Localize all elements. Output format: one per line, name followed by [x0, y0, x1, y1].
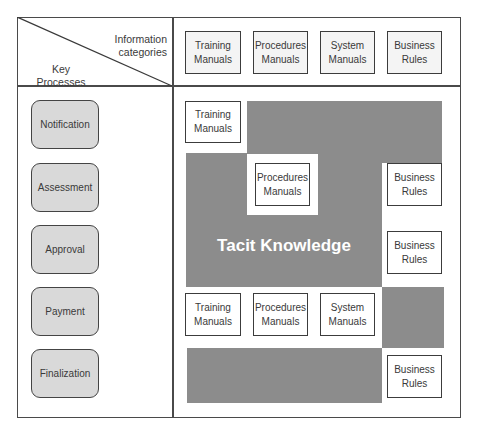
cell-finalization-business-rules: BusinessRules — [387, 355, 442, 398]
box-line: Business — [394, 171, 435, 185]
box-line: Manuals — [194, 122, 232, 136]
box-line: Training — [194, 108, 232, 122]
box-line: Procedures — [255, 301, 306, 315]
cell-approval-business-rules: BusinessRules — [387, 231, 442, 274]
information-categories-label: Information categories — [87, 33, 167, 59]
header-system-manuals: SystemManuals — [320, 31, 375, 74]
cell-payment-training-manuals: TrainingManuals — [185, 293, 241, 336]
box-line: Rules — [394, 377, 435, 391]
process-label: Finalization — [40, 368, 91, 379]
process-label: Approval — [45, 244, 84, 255]
label-line: Processes — [36, 76, 86, 89]
box-line: Manuals — [255, 315, 306, 329]
tacit-region-bottom-right — [382, 287, 444, 348]
tacit-region-top-extension — [382, 153, 442, 163]
process-finalization: Finalization — [31, 349, 99, 398]
tacit-region-left — [186, 153, 247, 287]
label-line: Key — [36, 63, 86, 76]
cell-assessment-business-rules: BusinessRules — [387, 163, 442, 206]
box-line: Procedures — [255, 39, 306, 53]
header-procedures-manuals: ProceduresManuals — [253, 31, 308, 74]
box-line: Rules — [394, 253, 435, 267]
tacit-region-bottom — [187, 348, 382, 403]
box-line: System — [329, 39, 367, 53]
box-line: Rules — [394, 185, 435, 199]
header-training-manuals: TrainingManuals — [185, 31, 241, 74]
box-line: Manuals — [329, 53, 367, 67]
header-business-rules: BusinessRules — [387, 31, 442, 74]
process-approval: Approval — [31, 225, 99, 274]
box-line: Training — [194, 301, 232, 315]
tacit-region-top — [247, 101, 442, 154]
cell-payment-system-manuals: SystemManuals — [320, 293, 375, 336]
process-payment: Payment — [31, 287, 99, 336]
box-line: Procedures — [257, 171, 308, 185]
process-label: Assessment — [38, 182, 92, 193]
box-line: Training — [194, 39, 232, 53]
box-line: Business — [394, 363, 435, 377]
process-notification: Notification — [31, 100, 99, 149]
box-line: Rules — [394, 53, 435, 67]
cell-payment-procedures-manuals: ProceduresManuals — [253, 293, 308, 336]
box-line: Manuals — [257, 185, 308, 199]
box-line: Manuals — [194, 53, 232, 67]
box-line: Manuals — [194, 315, 232, 329]
process-label: Notification — [40, 119, 89, 130]
key-processes-label: Key Processes — [36, 63, 86, 89]
box-line: System — [329, 301, 367, 315]
label-line: Information — [87, 33, 167, 46]
label-line: categories — [87, 46, 167, 59]
box-line: Business — [394, 39, 435, 53]
tacit-knowledge-label: Tacit Knowledge — [186, 236, 382, 256]
box-line: Manuals — [329, 315, 367, 329]
cell-notification-training-manuals: TrainingManuals — [185, 101, 241, 143]
process-label: Payment — [45, 306, 84, 317]
tacit-region-right — [318, 153, 382, 287]
process-assessment: Assessment — [31, 163, 99, 212]
box-line: Manuals — [255, 53, 306, 67]
box-line: Business — [394, 239, 435, 253]
cell-assessment-procedures-manuals: ProceduresManuals — [255, 163, 310, 206]
